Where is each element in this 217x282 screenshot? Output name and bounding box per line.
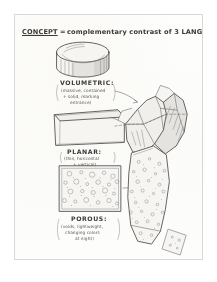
figure-small-porous-card	[162, 229, 186, 255]
title-keyword: CONCEPT	[22, 28, 58, 36]
note-planar-line-2: + vertical)	[73, 162, 96, 167]
label-volumetric: VOLUMETRIC:	[60, 79, 114, 86]
note-volumetric-line-3: entrance)	[70, 100, 91, 105]
note-volumetric-line-1: (massive, contained	[61, 88, 105, 93]
label-planar: PLANAR:	[67, 148, 102, 155]
figure-plane-planar	[55, 110, 125, 146]
figure-faceted-rock-mass	[111, 85, 187, 153]
note-porous-line-2: changing colors	[65, 230, 100, 235]
note-porous-line-1: (voids, lightweight,	[61, 224, 103, 229]
figure-cylinder-volumetric	[57, 42, 109, 77]
figure-dotted-tower	[128, 146, 170, 244]
figure-porous-square	[60, 166, 121, 212]
note-planar-line-1: (thin, horizontal	[64, 156, 99, 161]
leader-volumetric-to-mass	[115, 91, 138, 103]
title-rest: complementary contrast of 3 LANGUAGES:	[67, 28, 203, 36]
title-keyword-text: CONCEPT	[22, 28, 58, 36]
screenshot-canvas: CONCEPT = complementary contrast of 3 LA…	[0, 0, 217, 282]
sketch-drawing-layer	[15, 15, 202, 259]
sketch-sheet: CONCEPT = complementary contrast of 3 LA…	[14, 14, 203, 260]
note-volumetric-line-2: + solid, marking	[63, 94, 99, 99]
label-porous: POROUS:	[71, 215, 107, 222]
note-porous-line-3: at night)	[75, 236, 94, 241]
title-separator: =	[60, 28, 66, 36]
